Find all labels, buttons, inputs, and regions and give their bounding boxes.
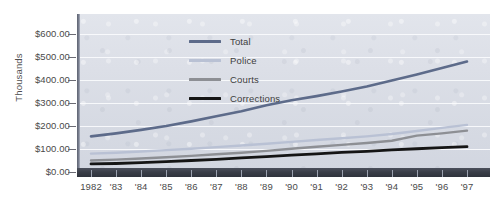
x-axis-tick-label: '90: [285, 181, 298, 192]
x-axis-tick-label: '96: [436, 181, 449, 192]
x-axis-tick-label: '84: [135, 181, 148, 192]
x-axis-tick-label: '95: [411, 181, 424, 192]
x-axis-tick-label: '97: [461, 181, 474, 192]
line-chart: Thousands $600.00$500.00$400.00$300.00$2…: [0, 0, 501, 203]
x-axis-tick-label: 1982: [80, 181, 102, 192]
x-axis-tick-label: '91: [310, 181, 323, 192]
x-axis-tick-label: '92: [335, 181, 348, 192]
x-axis-tick-label: '83: [110, 181, 123, 192]
x-axis-tick-label: '89: [260, 181, 273, 192]
x-axis-tick-label: '87: [210, 181, 223, 192]
x-axis-tick-labels: 1982'83'84'85'86'87'88'89'90'91'92'93'94…: [0, 0, 501, 203]
x-axis-tick-label: '86: [185, 181, 198, 192]
x-axis-tick-label: '85: [160, 181, 173, 192]
x-axis-tick-label: '94: [385, 181, 398, 192]
x-axis-tick-label: '93: [360, 181, 373, 192]
x-axis-tick-label: '88: [235, 181, 248, 192]
